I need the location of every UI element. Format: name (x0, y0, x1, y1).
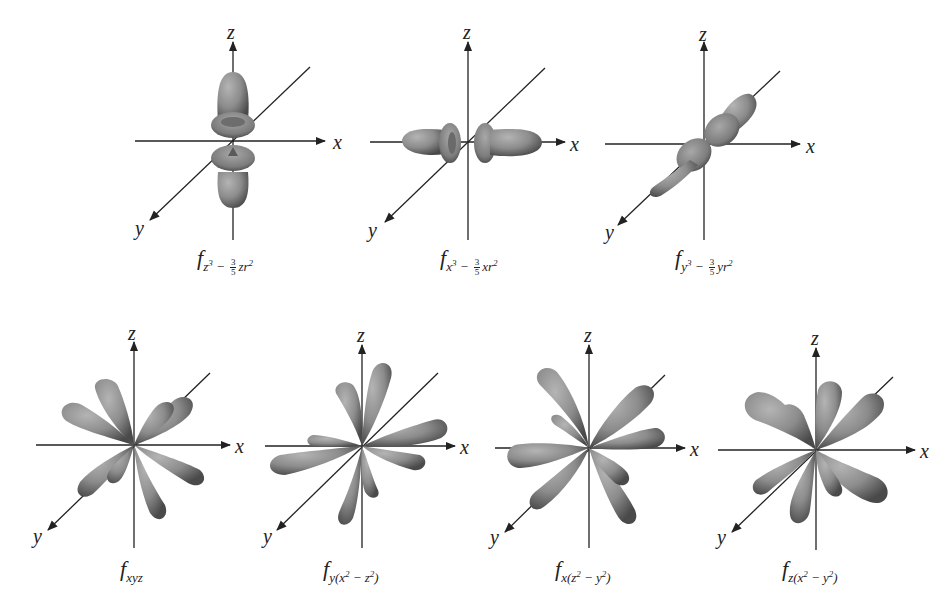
orbital-diagram-fy3 (590, 0, 830, 250)
fraction: 35 (474, 258, 481, 277)
orbital-caption-fx3: fx3 − 35xr2 (440, 247, 498, 271)
fraction: 35 (709, 258, 716, 277)
orbital-caption-fx-z2-y2: fx(z2 − y2) (555, 558, 611, 580)
orbital-diagram-fx-z2-y2 (485, 320, 710, 570)
z-axis-label: z (584, 325, 592, 345)
y-axis-label: y (263, 526, 272, 546)
orbital-caption-fy-x2-z2: fy(x2 − z2) (323, 558, 379, 580)
z-axis-label: z (357, 325, 365, 345)
y-axis-label: y (33, 526, 42, 546)
x-axis-label: x (333, 132, 342, 152)
orbital-caption-fz-x2-y2: fz(x2 − y2) (782, 558, 838, 580)
x-axis-label: x (920, 441, 929, 461)
orbital-panel-fz-x2-y2: z x y fz(x2 − y2) (710, 320, 952, 600)
y-axis-label: y (717, 527, 726, 547)
orbital-panel-fx3: z x y fx3 − 35xr2 (360, 0, 600, 280)
orbital-diagram-fy-x2-z2 (255, 320, 475, 570)
z-axis-label: z (811, 328, 819, 348)
orbital-caption-fxyz: fxyz (120, 558, 143, 580)
z-axis-label: z (128, 323, 136, 343)
orbital-panel-fx-z2-y2: z x y fx(z2 − y2) (485, 320, 710, 600)
z-axis-label: z (699, 24, 707, 44)
orbital-diagram-fz3 (130, 0, 370, 250)
x-axis-label: x (806, 136, 815, 156)
orbital-diagram-fxyz (20, 320, 260, 570)
x-axis-label: x (570, 134, 579, 154)
x-axis-label: x (460, 437, 469, 457)
y-axis-label: y (605, 222, 614, 242)
orbital-caption-fy3: fy3 − 35yr2 (675, 247, 733, 271)
orbital-caption-fz3: fz3 − 35zr2 (197, 247, 253, 271)
orbital-diagram-fx3 (360, 0, 600, 250)
orbital-panel-fz3: z x y fz3 − 35zr2 (130, 0, 370, 280)
x-axis-label: x (690, 439, 699, 459)
y-axis-label: y (368, 220, 377, 240)
orbital-diagram-fz-x2-y2 (710, 320, 952, 570)
x-axis-label: x (235, 436, 244, 456)
orbital-panel-fy3: z x y fy3 − 35yr2 (590, 0, 830, 280)
z-axis-label: z (227, 22, 235, 42)
z-axis-label: z (463, 22, 471, 42)
orbital-panel-fy-x2-z2: z x y fy(x2 − z2) (255, 320, 475, 600)
fraction: 35 (230, 258, 237, 277)
orbital-panel-fxyz: z x y fxyz (20, 320, 260, 600)
y-axis-label: y (490, 527, 499, 547)
y-axis-label: y (135, 218, 144, 238)
